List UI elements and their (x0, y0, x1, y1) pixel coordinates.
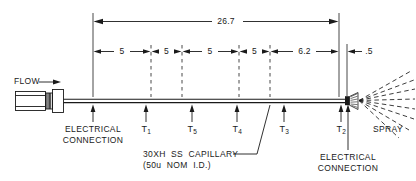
seg-1-arrow-left (94, 49, 102, 54)
capillary-label-line2: (50u NOM I.D.) (143, 160, 211, 171)
segment-dimension-lines (94, 49, 363, 54)
thermocouple-label-t3: T3 (279, 124, 288, 134)
segment-dimension-3: 5 (207, 46, 212, 56)
seg-3-arrow-left (183, 49, 191, 54)
electrical-connection-left-line1: ELECTRICAL (65, 124, 121, 135)
capillary-tube (64, 99, 350, 102)
tc-arrow-head-t1 (144, 105, 149, 113)
seg-5-arrow-left (271, 49, 279, 54)
flow-label: FLOW (14, 76, 40, 87)
t2-subscript: 2 (342, 128, 346, 135)
thermocouple-label-t1: T1 (141, 124, 150, 134)
tc-arrow-head-t4 (235, 105, 240, 113)
seg-2-arrow-left (152, 49, 160, 54)
t5-letter: T (187, 124, 193, 134)
tc-arrow-head-ec-left (91, 105, 96, 113)
spray-ray-3 (359, 89, 415, 101)
capillary-spray-diagram: FLOW 26.7 5 5 5 5 6.2 .5 T1 T5 T4 T3 T2 … (0, 0, 416, 181)
t1-subscript: 1 (147, 128, 151, 135)
t3-subscript: 3 (285, 128, 289, 135)
seg-1-arrow-right (143, 49, 151, 54)
t2-letter: T (336, 124, 342, 134)
overall-dimension-value: 26.7 (217, 16, 235, 26)
seg-5-arrow-right (331, 49, 339, 54)
fitting-nut-rect (53, 90, 64, 113)
tc-arrow-head-t3 (282, 105, 287, 113)
spray-ray-5 (359, 101, 415, 110)
t3-letter: T (279, 124, 285, 134)
tc-arrow-head-t2 (339, 105, 344, 113)
electrical-connection-left-line2: CONNECTION (63, 135, 124, 146)
flow-arrow (39, 80, 61, 85)
flow-arrow-head (53, 80, 61, 85)
extension-lines (93, 13, 390, 97)
t5-subscript: 5 (193, 128, 197, 135)
t4-subscript: 4 (238, 128, 242, 135)
thermocouple-label-t4: T4 (232, 124, 241, 134)
segment-dimension-1: 5 (119, 46, 124, 56)
seg-4-arrow-right (262, 49, 270, 54)
nozzle-tip-block (345, 96, 350, 105)
thermocouple-label-t5: T5 (187, 124, 196, 134)
overall-dimension-line (94, 19, 339, 24)
electrical-connection-right-line2: CONNECTION (318, 163, 379, 174)
segment-dimension-5: 6.2 (298, 46, 311, 56)
spray-ray-2 (359, 80, 414, 101)
electrical-connection-right-line1: ELECTRICAL (320, 152, 376, 163)
fitting-body-rect (16, 92, 46, 111)
thermocouple-label-t2: T2 (336, 124, 345, 134)
thermocouple-arrows (91, 105, 351, 151)
capillary-label-line1: 30XH SS CAPILLARY (143, 149, 238, 160)
spray-ray-1 (359, 71, 411, 101)
seg-4-arrow-left (240, 49, 248, 54)
t4-letter: T (232, 124, 238, 134)
t1-letter: T (141, 124, 147, 134)
nozzle-hatch-5 (351, 104, 358, 105)
segment-dimension-2: 5 (164, 46, 169, 56)
nozzle-hatch-3 (351, 99, 358, 100)
spray-label: SPRAY (373, 124, 403, 135)
inlet-fitting-assembly (16, 90, 64, 113)
spray-ray-4 (359, 99, 415, 101)
segment-dimension-4: 5 (252, 46, 257, 56)
seg-3-arrow-right (231, 49, 239, 54)
overall-dim-arrow-right (329, 19, 339, 24)
segment-dimension-6: .5 (365, 46, 373, 56)
seg-6-arrow-left (348, 49, 356, 54)
overall-dim-arrow-left (94, 19, 104, 24)
seg-2-arrow-right (174, 49, 182, 54)
tc-arrow-head-t5 (190, 105, 195, 113)
spray-ray-6 (359, 101, 414, 120)
